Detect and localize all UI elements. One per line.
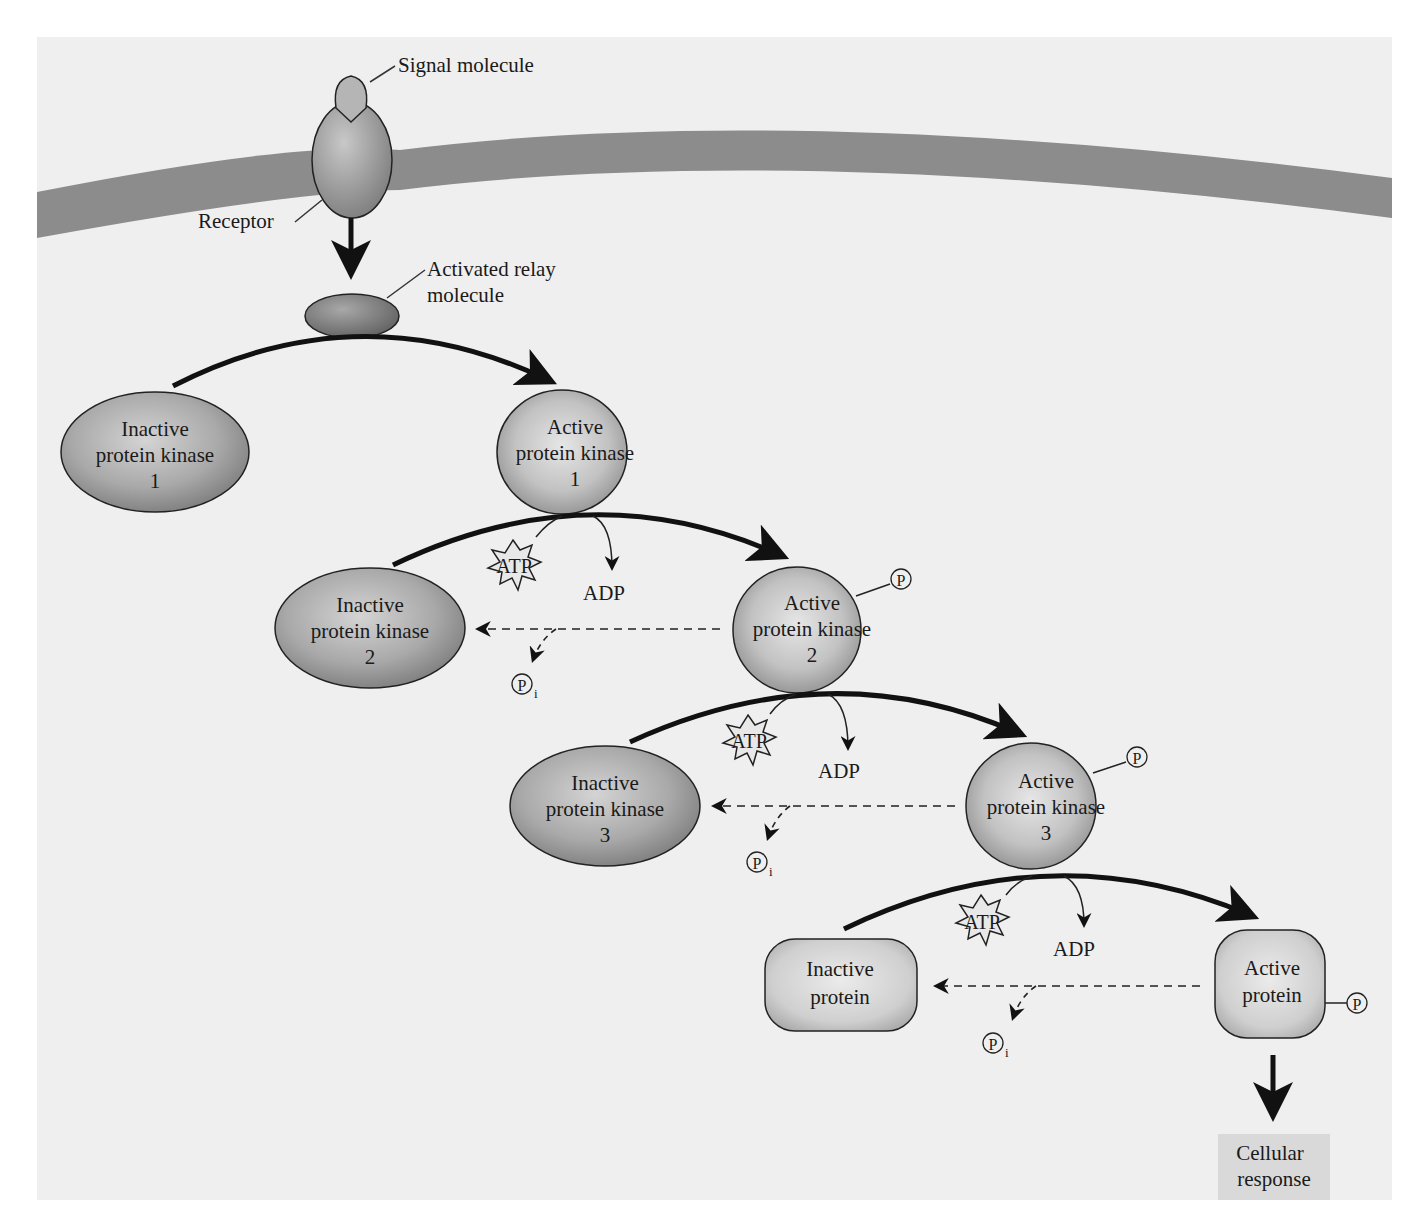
adp-output-arrow-4 <box>1064 876 1084 925</box>
svg-text:Inactive: Inactive <box>571 771 639 795</box>
pi-release-arrow-4 <box>1013 986 1036 1018</box>
active-protein-kinase-1: Active protein kinase 1 <box>497 390 634 514</box>
inorganic-phosphate-icon-3: P i <box>747 852 773 879</box>
svg-text:protein kinase: protein kinase <box>516 441 634 465</box>
svg-text:protein: protein <box>1242 983 1302 1007</box>
arrow-activation-kinase2 <box>393 515 780 565</box>
svg-text:Cellular: Cellular <box>1236 1141 1304 1165</box>
phosphate-bond-3 <box>1093 762 1126 773</box>
phosphate-bond <box>856 584 890 596</box>
adp-output-arrow-3 <box>828 694 848 748</box>
arrow-activation-protein <box>844 876 1250 929</box>
svg-text:protein kinase: protein kinase <box>311 619 429 643</box>
inactive-protein-kinase-2: Inactive protein kinase 2 <box>275 568 465 688</box>
svg-text:P: P <box>1353 996 1362 1013</box>
signal-leader-line <box>370 66 395 82</box>
pi-release-arrow-2 <box>533 629 556 660</box>
svg-text:Active: Active <box>1244 956 1300 980</box>
inactive-protein-kinase-1: Inactive protein kinase 1 <box>61 392 249 512</box>
svg-text:i: i <box>1005 1045 1009 1060</box>
adp-label-4: ADP <box>1053 937 1095 961</box>
active-protein: Active protein <box>1215 930 1325 1038</box>
phosphorylation-cascade-diagram: Signal molecule Receptor Activated relay… <box>0 0 1412 1222</box>
svg-text:protein kinase: protein kinase <box>96 443 214 467</box>
svg-text:3: 3 <box>1041 821 1052 845</box>
inorganic-phosphate-icon-4: P i <box>983 1033 1009 1060</box>
svg-text:protein kinase: protein kinase <box>546 797 664 821</box>
atp-label: ATP <box>496 555 532 577</box>
svg-text:i: i <box>534 686 538 701</box>
svg-text:protein kinase: protein kinase <box>753 617 871 641</box>
svg-text:response: response <box>1237 1167 1310 1191</box>
svg-text:Inactive: Inactive <box>121 417 189 441</box>
inorganic-phosphate-icon: P i <box>512 674 538 701</box>
svg-text:Inactive: Inactive <box>806 957 874 981</box>
svg-text:2: 2 <box>365 645 376 669</box>
svg-text:3: 3 <box>600 823 611 847</box>
svg-text:Active: Active <box>547 415 603 439</box>
active-protein-kinase-2: Active protein kinase 2 <box>733 567 871 693</box>
pi-release-arrow-3 <box>768 806 790 838</box>
svg-text:P: P <box>897 572 906 589</box>
atp-burst-icon-3: ATP <box>723 715 776 765</box>
adp-label: ADP <box>583 581 625 605</box>
arrow-activation-kinase1 <box>173 336 548 386</box>
svg-text:2: 2 <box>807 643 818 667</box>
svg-text:i: i <box>769 864 773 879</box>
adp-label-3: ADP <box>818 759 860 783</box>
active-protein-kinase-3: Active protein kinase 3 <box>966 743 1105 869</box>
svg-text:P: P <box>753 855 762 872</box>
phosphate-icon-3: P <box>1127 747 1147 767</box>
arrow-activation-kinase3 <box>630 694 1018 742</box>
inactive-protein-kinase-3: Inactive protein kinase 3 <box>510 746 700 866</box>
receptor-leader-line <box>295 200 322 222</box>
svg-text:P: P <box>989 1036 998 1053</box>
relay-label-line1: Activated relay <box>427 257 556 281</box>
phosphate-icon: P <box>891 569 911 589</box>
svg-text:Inactive: Inactive <box>336 593 404 617</box>
svg-text:Active: Active <box>1018 769 1074 793</box>
svg-text:protein: protein <box>810 985 870 1009</box>
phosphate-icon-4: P <box>1347 993 1367 1013</box>
adp-output-arrow <box>593 516 612 568</box>
atp-burst-icon: ATP <box>488 540 541 590</box>
relay-molecule <box>305 294 399 338</box>
svg-text:Active: Active <box>784 591 840 615</box>
atp-label-3: ATP <box>731 730 767 752</box>
svg-text:1: 1 <box>570 467 581 491</box>
inactive-protein: Inactive protein <box>765 939 917 1031</box>
atp-burst-icon-4: ATP <box>956 895 1009 945</box>
relay-leader-line <box>387 270 425 298</box>
relay-label-line2: molecule <box>427 283 504 307</box>
signal-molecule-label: Signal molecule <box>398 53 534 77</box>
svg-text:P: P <box>1133 750 1142 767</box>
svg-text:1: 1 <box>150 469 161 493</box>
receptor-label: Receptor <box>198 209 274 233</box>
svg-text:protein kinase: protein kinase <box>987 795 1105 819</box>
cellular-response-box: Cellular response <box>1218 1134 1330 1200</box>
atp-label-4: ATP <box>964 911 1000 933</box>
svg-text:P: P <box>518 677 527 694</box>
receptor-protein <box>312 76 392 218</box>
